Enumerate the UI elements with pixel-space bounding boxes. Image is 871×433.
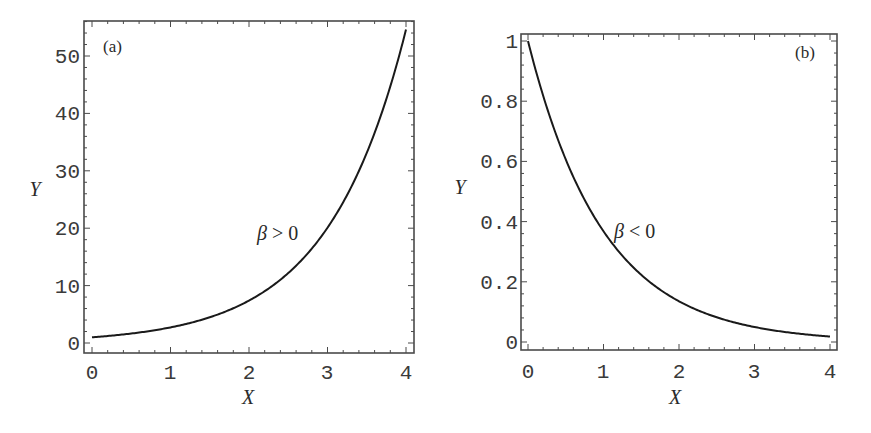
panel-b-annotation: β < 0 <box>613 220 655 243</box>
panel-b-y-axis-label: Y <box>454 176 467 198</box>
y-tick-label: 10 <box>55 276 80 299</box>
x-tick-label: 3 <box>748 361 761 384</box>
panel-a-curve-beta-positive <box>92 30 406 338</box>
figure: (a) β > 0 0 10 20 30 40 50 0 1 2 3 4 X Y… <box>0 0 871 433</box>
panel-b-tick-marks <box>521 34 837 350</box>
y-tick-label: 50 <box>55 46 80 69</box>
x-tick-label: 2 <box>243 362 256 385</box>
x-tick-label: 0 <box>86 362 99 385</box>
x-tick-label: 1 <box>164 362 177 385</box>
y-tick-label: 40 <box>55 103 80 126</box>
panel-a-y-axis-label: Y <box>29 178 42 200</box>
panel-a-x-tick-labels: 0 1 2 3 4 <box>86 362 413 385</box>
annotation-relation: > 0 <box>267 222 298 244</box>
x-tick-label: 4 <box>824 361 837 384</box>
y-tick-label: 0 <box>67 333 80 356</box>
y-tick-label: 30 <box>55 161 80 184</box>
panel-a-tick-marks <box>84 21 414 353</box>
panel-b-curve-beta-negative <box>528 41 830 336</box>
y-tick-label: 0.6 <box>480 151 518 174</box>
y-tick-label: 0.4 <box>480 212 518 235</box>
x-tick-label: 2 <box>673 361 686 384</box>
panel-a-exponential-growth: (a) β > 0 0 10 20 30 40 50 0 1 2 3 4 X Y <box>29 21 414 408</box>
x-tick-label: 3 <box>321 362 334 385</box>
y-tick-label: 0 <box>505 332 518 355</box>
panel-b-frame <box>521 34 837 350</box>
y-tick-label: 0.8 <box>480 91 518 114</box>
x-tick-label: 4 <box>400 362 413 385</box>
y-tick-label: 1 <box>505 31 518 54</box>
panel-b-exponential-decay: (b) β < 0 0 0.2 0.4 0.6 0.8 1 0 1 2 3 4 … <box>454 31 837 408</box>
annotation-relation: < 0 <box>624 220 655 242</box>
panel-b-tag: (b) <box>795 43 815 62</box>
panel-b-x-tick-labels: 0 1 2 3 4 <box>522 361 837 384</box>
beta-symbol: β <box>256 222 267 245</box>
x-tick-label: 1 <box>597 361 610 384</box>
panel-a-annotation: β > 0 <box>256 222 298 245</box>
y-tick-label: 0.2 <box>480 272 518 295</box>
beta-symbol: β <box>613 220 624 243</box>
panel-a-tag: (a) <box>103 37 122 56</box>
panel-b-y-tick-labels: 0 0.2 0.4 0.6 0.8 1 <box>480 31 518 355</box>
panel-b-x-axis-label: X <box>668 386 682 408</box>
panel-a-y-tick-labels: 0 10 20 30 40 50 <box>55 46 80 356</box>
y-tick-label: 20 <box>55 218 80 241</box>
x-tick-label: 0 <box>522 361 535 384</box>
panel-a-x-axis-label: X <box>241 386 255 408</box>
panel-a-frame <box>84 21 414 353</box>
